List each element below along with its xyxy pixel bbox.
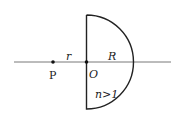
label-p: P [49, 69, 57, 82]
point-o-dot [85, 60, 89, 64]
label-o: O [89, 68, 98, 81]
label-refractive-index: n>1 [95, 88, 118, 101]
point-p-dot [51, 60, 55, 64]
label-radius: R [107, 50, 116, 63]
label-r: r [66, 50, 72, 63]
diagram-canvas: P r O R n>1 [0, 0, 183, 124]
